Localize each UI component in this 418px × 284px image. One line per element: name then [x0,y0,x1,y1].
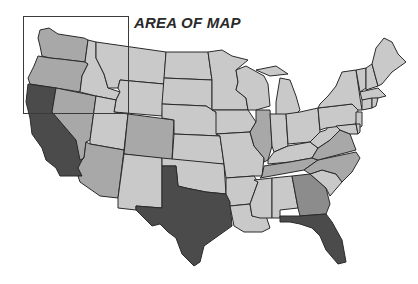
state-ct [362,98,372,110]
state-az [78,142,124,198]
map-title: AREA OF MAP [134,14,241,31]
state-fl [280,214,346,264]
us-map [0,0,418,284]
state-ri [372,98,378,108]
states-layer [26,28,406,266]
state-in [270,114,288,152]
state-ny [318,70,362,110]
state-wy [114,80,164,116]
state-nd [164,52,212,80]
state-nm [118,154,162,210]
state-ia [212,110,256,134]
map-figure: AREA OF MAP [0,0,418,284]
state-me [372,38,406,86]
state-co [124,114,174,160]
